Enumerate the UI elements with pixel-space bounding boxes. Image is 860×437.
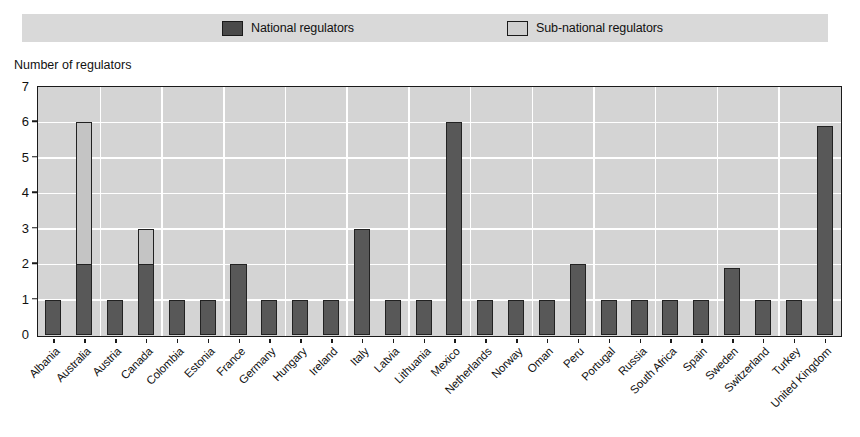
legend-entry-national: National regulators xyxy=(222,21,354,36)
bar-segment-national xyxy=(292,300,308,335)
x-axis-tick-label: Estonia xyxy=(182,345,217,380)
bar-segment-national xyxy=(662,300,678,335)
y-axis-tick-mark xyxy=(32,227,37,229)
y-axis: 01234567 xyxy=(0,86,37,337)
y-axis-tick-label: 3 xyxy=(22,220,29,235)
bar-group[interactable] xyxy=(662,300,678,335)
bar-group[interactable] xyxy=(354,229,370,335)
bars-layer xyxy=(38,87,840,335)
chart-legend: National regulators Sub-national regulat… xyxy=(22,14,828,42)
x-axis-tick-mark xyxy=(331,339,333,343)
bar-segment-national xyxy=(200,300,216,335)
bar-group[interactable] xyxy=(786,300,802,335)
bar-segment-national xyxy=(724,268,740,335)
y-axis-tick-mark xyxy=(32,298,37,300)
bar-segment-national xyxy=(693,300,709,335)
x-axis-tick-label: Latvia xyxy=(371,345,401,375)
x-axis-tick-mark xyxy=(300,339,302,343)
x-axis-tick-mark xyxy=(269,339,271,343)
bar-group[interactable] xyxy=(107,300,123,335)
x-axis-tick-mark xyxy=(670,339,672,343)
y-axis-tick-label: 4 xyxy=(22,185,29,200)
bar-group[interactable] xyxy=(292,300,308,335)
x-axis-tick-mark xyxy=(177,339,179,343)
bar-group[interactable] xyxy=(138,229,154,335)
legend-swatch-national-icon xyxy=(222,21,243,36)
bar-segment-national xyxy=(138,264,154,335)
bar-segment-national xyxy=(354,229,370,335)
x-axis-tick-mark xyxy=(701,339,703,343)
bar-group[interactable] xyxy=(724,268,740,335)
x-axis-tick-mark xyxy=(208,339,210,343)
bar-segment-national xyxy=(786,300,802,335)
legend-label-national: National regulators xyxy=(251,21,354,35)
legend-entry-subnational: Sub-national regulators xyxy=(507,21,663,36)
bar-segment-national xyxy=(601,300,617,335)
bar-group[interactable] xyxy=(261,300,277,335)
bar-group[interactable] xyxy=(817,126,833,335)
bar-group[interactable] xyxy=(446,122,462,335)
bar-segment-national xyxy=(323,300,339,335)
y-axis-title: Number of regulators xyxy=(14,58,131,72)
y-axis-tick-label: 6 xyxy=(22,114,29,129)
y-axis-tick-mark xyxy=(32,192,37,194)
bar-segment-subnational xyxy=(76,122,92,264)
bar-segment-national xyxy=(416,300,432,335)
bar-group[interactable] xyxy=(631,300,647,335)
x-axis-labels: AlbaniaAustraliaAustriaCanadaColombiaEst… xyxy=(38,339,840,434)
bar-segment-national xyxy=(477,300,493,335)
bar-group[interactable] xyxy=(385,300,401,335)
bar-group[interactable] xyxy=(477,300,493,335)
bar-segment-national xyxy=(76,264,92,335)
bar-group[interactable] xyxy=(693,300,709,335)
x-axis-tick-label: Norway xyxy=(489,345,524,380)
bar-group[interactable] xyxy=(601,300,617,335)
bar-group[interactable] xyxy=(508,300,524,335)
x-axis-tick-label: Italy xyxy=(348,345,371,368)
x-axis-tick-mark xyxy=(794,339,796,343)
x-axis-tick-mark xyxy=(393,339,395,343)
x-axis-tick-label: Oman xyxy=(525,345,555,375)
bar-segment-national xyxy=(385,300,401,335)
x-axis-tick-mark xyxy=(84,339,86,343)
bar-segment-national xyxy=(261,300,277,335)
x-axis-tick-mark xyxy=(825,339,827,343)
y-axis-tick-label: 1 xyxy=(22,291,29,306)
x-axis-tick-mark xyxy=(732,339,734,343)
legend-swatch-subnational-icon xyxy=(507,21,528,36)
x-axis-tick-label: Peru xyxy=(561,345,586,370)
x-axis-tick-label: Spain xyxy=(681,345,710,374)
x-axis-tick-mark xyxy=(485,339,487,343)
bar-group[interactable] xyxy=(45,300,61,335)
bar-segment-national xyxy=(539,300,555,335)
bar-segment-national xyxy=(446,122,462,335)
bar-segment-national xyxy=(631,300,647,335)
y-axis-tick-label: 0 xyxy=(22,327,29,342)
bar-group[interactable] xyxy=(200,300,216,335)
bar-group[interactable] xyxy=(169,300,185,335)
y-axis-tick-mark xyxy=(32,121,37,123)
bar-group[interactable] xyxy=(539,300,555,335)
bar-group[interactable] xyxy=(570,264,586,335)
bar-group[interactable] xyxy=(323,300,339,335)
x-axis-tick-mark xyxy=(763,339,765,343)
y-axis-tick-mark xyxy=(32,156,37,158)
x-axis-tick-mark xyxy=(454,339,456,343)
bar-group[interactable] xyxy=(755,300,771,335)
bar-segment-national xyxy=(508,300,524,335)
bar-segment-national xyxy=(817,126,833,335)
x-axis-tick-mark xyxy=(516,339,518,343)
bar-segment-national xyxy=(169,300,185,335)
x-axis-tick-label: Ireland xyxy=(307,345,340,378)
x-axis-tick-mark xyxy=(146,339,148,343)
bar-segment-subnational xyxy=(138,229,154,264)
bar-group[interactable] xyxy=(230,264,246,335)
bar-segment-national xyxy=(755,300,771,335)
legend-label-subnational: Sub-national regulators xyxy=(536,21,663,35)
y-axis-tick-label: 2 xyxy=(22,256,29,271)
bar-group[interactable] xyxy=(76,122,92,335)
y-axis-tick-mark xyxy=(32,262,37,264)
bar-group[interactable] xyxy=(416,300,432,335)
x-axis-tick-mark xyxy=(239,339,241,343)
bar-segment-national xyxy=(45,300,61,335)
